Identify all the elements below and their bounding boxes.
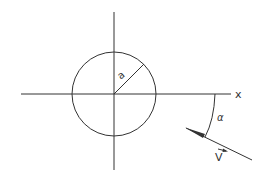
- radius-label: a: [115, 69, 127, 81]
- velocity-arrowhead-icon: [185, 128, 205, 139]
- diagram-canvas: x a α V: [0, 0, 267, 181]
- velocity-label: V: [215, 151, 223, 164]
- angle-arc: [205, 94, 215, 137]
- angle-label: α: [217, 112, 224, 123]
- radius-line: [114, 64, 144, 94]
- x-axis-label: x: [235, 88, 242, 101]
- velocity-overarrow-icon: [223, 149, 229, 153]
